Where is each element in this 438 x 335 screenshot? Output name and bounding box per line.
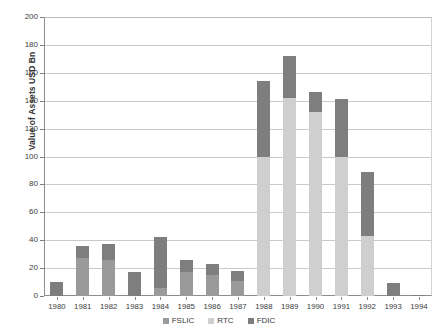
bar-slot — [277, 17, 303, 296]
bar-segment-fdic — [128, 272, 141, 296]
x-tick-mark — [367, 297, 368, 300]
x-tick-mark — [290, 297, 291, 300]
bar-segment-fslic — [154, 288, 167, 296]
x-tick-label: 1990 — [303, 297, 329, 313]
x-tick-label: 1989 — [277, 297, 303, 313]
legend-label: RTC — [217, 316, 233, 325]
bar-segment-fdic — [50, 282, 63, 296]
stacked-bar[interactable] — [309, 92, 322, 296]
stacked-bar[interactable] — [387, 283, 400, 296]
x-tick-mark — [212, 297, 213, 300]
x-tick-label: 1986 — [199, 297, 225, 313]
bar-slot — [122, 17, 148, 296]
x-tick-label: 1987 — [225, 297, 251, 313]
bar-slot — [44, 17, 70, 296]
y-tick-label: 120 — [8, 124, 38, 133]
x-axis-tick-labels: 1980198119821983198419851986198719881989… — [44, 297, 432, 313]
x-tick-mark — [83, 297, 84, 300]
stacked-bar[interactable] — [231, 271, 244, 296]
x-tick-mark — [316, 297, 317, 300]
bar-slot — [303, 17, 329, 296]
bar-segment-rtc — [283, 98, 296, 296]
bar-segment-fslic — [231, 281, 244, 296]
bar-slot — [70, 17, 96, 296]
x-tick-label: 1983 — [122, 297, 148, 313]
stacked-bar[interactable] — [154, 237, 167, 296]
bar-segment-fdic — [180, 260, 193, 273]
bar-segment-fslic — [206, 275, 219, 296]
bar-segment-fdic — [154, 237, 167, 287]
bar-slot — [328, 17, 354, 296]
y-tick-label: 20 — [8, 263, 38, 272]
x-tick-label: 1992 — [354, 297, 380, 313]
bar-segment-fdic — [206, 264, 219, 275]
bar-segment-fdic — [309, 92, 322, 112]
legend-item-rtc[interactable]: RTC — [208, 316, 233, 325]
legend-label: FSLIC — [172, 316, 195, 325]
stacked-bar[interactable] — [206, 264, 219, 296]
x-tick-label: 1994 — [406, 297, 432, 313]
stacked-bar[interactable] — [335, 99, 348, 296]
stacked-bar[interactable] — [412, 295, 425, 296]
x-tick-label: 1991 — [328, 297, 354, 313]
x-tick-label: 1981 — [70, 297, 96, 313]
bar-slot — [173, 17, 199, 296]
stacked-bar[interactable] — [283, 56, 296, 296]
chart-legend: FSLICRTCFDIC — [0, 316, 438, 325]
bar-segment-fdic — [387, 283, 400, 296]
bar-segment-rtc — [257, 157, 270, 297]
legend-item-fslic[interactable]: FSLIC — [163, 316, 195, 325]
stacked-bar[interactable] — [128, 272, 141, 296]
chart-canvas: Value of Assets USD Bn 20018016014012010… — [0, 0, 438, 335]
bar-segment-fdic — [76, 246, 89, 259]
y-tick-label: 0 — [8, 291, 38, 300]
bar-segment-fslic — [180, 272, 193, 296]
bar-segment-rtc — [335, 157, 348, 297]
bar-segment-fdic — [335, 99, 348, 156]
bar-segment-fdic — [102, 244, 115, 259]
x-tick-mark — [160, 297, 161, 300]
stacked-bar[interactable] — [102, 244, 115, 296]
x-tick-mark — [393, 297, 394, 300]
y-tick-label: 80 — [8, 179, 38, 188]
bar-slot — [199, 17, 225, 296]
x-tick-mark — [264, 297, 265, 300]
y-tick-label: 180 — [8, 40, 38, 49]
x-tick-label: 1980 — [44, 297, 70, 313]
x-tick-label: 1988 — [251, 297, 277, 313]
bar-segment-fdic — [361, 172, 374, 236]
legend-label: FDIC — [257, 316, 276, 325]
bar-segment-fdic — [231, 271, 244, 281]
bar-segment-fslic — [102, 260, 115, 296]
stacked-bar[interactable] — [50, 282, 63, 296]
legend-swatch-icon — [208, 318, 214, 324]
y-tick-label: 200 — [8, 12, 38, 21]
y-tick-label: 160 — [8, 68, 38, 77]
stacked-bar[interactable] — [180, 260, 193, 296]
stacked-bar[interactable] — [361, 172, 374, 296]
x-tick-mark — [57, 297, 58, 300]
bar-segment-fdic — [412, 295, 425, 296]
x-tick-mark — [419, 297, 420, 300]
bar-slot — [225, 17, 251, 296]
y-tick-label: 60 — [8, 207, 38, 216]
bar-slot — [354, 17, 380, 296]
stacked-bar[interactable] — [76, 246, 89, 296]
bar-group — [44, 17, 432, 296]
x-tick-mark — [341, 297, 342, 300]
bar-segment-fslic — [76, 258, 89, 296]
bar-segment-rtc — [309, 112, 322, 296]
bar-slot — [380, 17, 406, 296]
legend-swatch-icon — [248, 318, 254, 324]
bar-slot — [251, 17, 277, 296]
bar-slot — [147, 17, 173, 296]
legend-item-fdic[interactable]: FDIC — [248, 316, 276, 325]
bar-segment-rtc — [361, 236, 374, 296]
bar-slot — [96, 17, 122, 296]
x-tick-mark — [135, 297, 136, 300]
x-tick-label: 1993 — [380, 297, 406, 313]
y-tick-label: 140 — [8, 96, 38, 105]
bar-segment-fdic — [257, 81, 270, 156]
y-tick-label: 40 — [8, 235, 38, 244]
stacked-bar[interactable] — [257, 81, 270, 296]
